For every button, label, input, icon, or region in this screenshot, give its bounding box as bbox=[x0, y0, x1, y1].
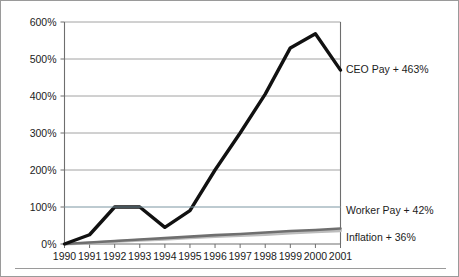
x-axis-tick-label: 1995 bbox=[178, 250, 202, 262]
series-line-worker-pay bbox=[65, 228, 341, 244]
x-axis-tick-label: 2001 bbox=[329, 250, 353, 262]
y-axis-tick-label: 300% bbox=[30, 127, 57, 139]
y-axis-tick-labels: 600%500%400%300%200%100%0% bbox=[30, 16, 57, 250]
y-axis-tick-label: 600% bbox=[30, 16, 57, 28]
series-line-ceo-pay bbox=[65, 34, 341, 244]
x-axis-tick-label: 1993 bbox=[128, 250, 152, 262]
x-axis-tick-marks bbox=[65, 244, 341, 248]
y-axis-tick-label: 0% bbox=[41, 238, 56, 250]
x-axis-tick-label: 1994 bbox=[153, 250, 177, 262]
x-axis-tick-label: 1992 bbox=[103, 250, 127, 262]
y-axis-tick-label: 500% bbox=[30, 53, 57, 65]
x-axis-tick-label: 1999 bbox=[279, 250, 303, 262]
gridlines bbox=[61, 22, 341, 244]
x-axis-tick-label: 1990 bbox=[53, 250, 77, 262]
chart-container: 600%500%400%300%200%100%0% 1990199119921… bbox=[0, 0, 459, 277]
x-axis-tick-label: 1991 bbox=[78, 250, 102, 262]
series-label-ceo-pay: CEO Pay + 463% bbox=[346, 63, 429, 75]
y-axis-tick-label: 100% bbox=[30, 201, 57, 213]
series-label-inflation: Inflation + 36% bbox=[346, 231, 416, 243]
x-axis-tick-label: 1997 bbox=[228, 250, 252, 262]
data-series bbox=[65, 34, 341, 244]
y-axis-tick-label: 200% bbox=[30, 164, 57, 176]
line-chart: 600%500%400%300%200%100%0% 1990199119921… bbox=[1, 1, 459, 277]
series-label-worker-pay: Worker Pay + 42% bbox=[346, 204, 434, 216]
x-axis-tick-label: 1998 bbox=[254, 250, 278, 262]
x-axis-tick-label: 1996 bbox=[203, 250, 227, 262]
x-axis-tick-labels: 1990199119921993199419951996199719981999… bbox=[53, 250, 353, 262]
x-axis-tick-label: 2000 bbox=[304, 250, 328, 262]
y-axis-tick-label: 400% bbox=[30, 90, 57, 102]
